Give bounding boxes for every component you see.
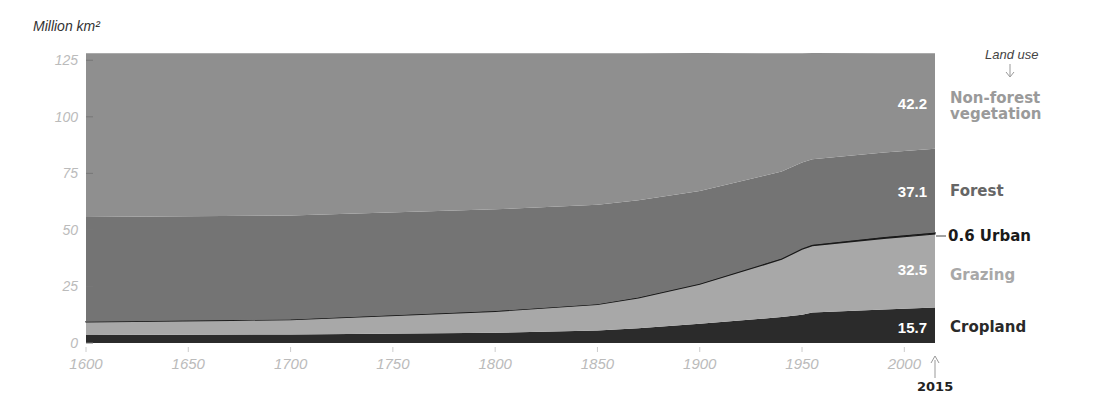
y-tick-label: 0 [70,335,78,351]
y-tick-label: 50 [62,222,78,238]
cropland-value: 15.7 [898,319,927,336]
urban-value: 0.6 [948,227,975,245]
chart: 0255075100125 16001650170017501800185019… [0,0,1099,420]
y-tick-label: 25 [61,278,78,294]
legend-nonforest: Non-forest vegetation [950,90,1041,122]
x-axis: 160016501700175018001850190019502000 [69,347,921,372]
legend-urban: 0.6 Urban [948,228,1031,244]
x-tick-label: 1850 [581,355,615,372]
grazing-value: 32.5 [898,261,927,278]
urban-label: Urban [980,227,1031,245]
x-tick-label: 2000 [887,355,922,372]
y-tick-label: 125 [55,52,79,68]
x-tick-label: 1700 [274,355,308,372]
x-tick-label: 1800 [478,355,512,372]
y-tick-label: 75 [62,165,78,181]
nonforest-value: 42.2 [898,95,927,112]
x-tick-label: 1650 [172,355,206,372]
x-tick-label: 1750 [376,355,410,372]
legend-cropland: Cropland [950,319,1026,335]
end-year-label: 2015 [917,379,953,394]
stacked-areas [86,53,935,343]
forest-value: 37.1 [898,183,927,200]
legend-nonforest-line2: vegetation [950,106,1041,122]
x-tick-label: 1950 [785,355,819,372]
legend-forest: Forest [950,183,1004,199]
legend-nonforest-line1: Non-forest [950,90,1041,106]
legend-grazing: Grazing [950,267,1015,283]
y-tick-label: 100 [55,109,79,125]
x-tick-label: 1600 [69,355,103,372]
x-tick-label: 1900 [683,355,717,372]
